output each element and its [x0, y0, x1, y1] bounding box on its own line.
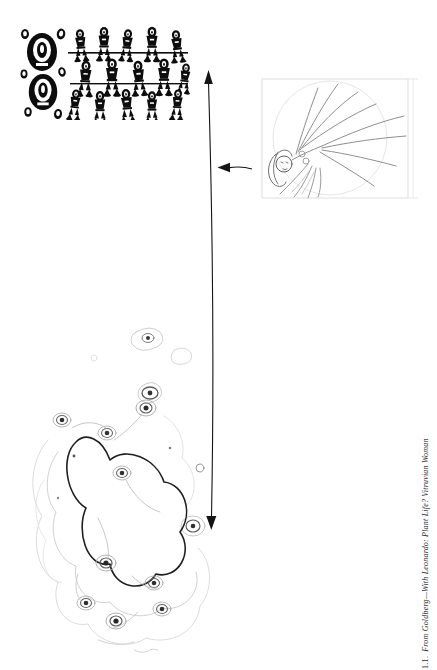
figure-title: From Goldberg—With Leonardo: Plant Life?…: [421, 438, 430, 651]
goblet-figures-artwork: [16, 22, 196, 120]
figure-caption: 1.1.From Goldberg—With Leonardo: Plant L…: [421, 323, 431, 669]
figure-page: 1.1.From Goldberg—With Leonardo: Plant L…: [0, 0, 437, 670]
arrowhead-left-icon: [218, 163, 231, 172]
vitruvian-fairy-sketch: [256, 76, 418, 204]
left-arrow: [218, 163, 253, 172]
figure-number: 1.1.: [421, 656, 430, 669]
arrowhead-up-icon: [204, 70, 213, 84]
contour-density-map: [14, 320, 216, 662]
